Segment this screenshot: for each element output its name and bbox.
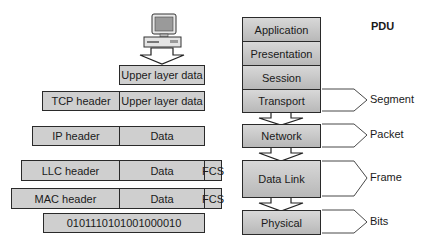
- layer-session: Session: [242, 65, 321, 90]
- layer-physical: Physical: [242, 210, 321, 235]
- mac-data-cell: Data: [120, 189, 205, 208]
- llc-header-label: LLC header: [42, 165, 100, 177]
- pdu-bracket-bits: [322, 210, 367, 233]
- ip-packet-row: IP header Data: [32, 126, 205, 146]
- mac-frame-row: MAC header Data FCS: [11, 188, 222, 209]
- bits-row: 0101110101001000010: [43, 213, 205, 233]
- bits-value: 0101110101001000010: [67, 217, 182, 229]
- down-arrow-icon: [259, 197, 303, 211]
- diagram-graphics: [0, 0, 423, 249]
- mac-data-label: Data: [150, 193, 173, 205]
- layer-label: Data Link: [258, 173, 304, 185]
- llc-fcs-label: FCS: [202, 165, 224, 177]
- layer-data-link: Data Link: [242, 160, 321, 198]
- pdu-bits: Bits: [370, 215, 388, 227]
- llc-frame-row: LLC header Data FCS: [21, 160, 222, 181]
- llc-header-cell: LLC header: [22, 161, 120, 180]
- pdu-segment: Segment: [370, 93, 414, 105]
- layer-presentation: Presentation: [242, 41, 321, 66]
- layer-label: Transport: [258, 95, 305, 107]
- llc-data-label: Data: [150, 165, 173, 177]
- ip-header-label: IP header: [52, 130, 100, 142]
- layer-label: Physical: [261, 217, 302, 229]
- tcp-data-cell: Upper layer data: [120, 92, 204, 110]
- pdu-bracket-segment: [322, 89, 367, 111]
- llc-fcs-cell: FCS: [205, 161, 221, 180]
- tcp-header-cell: TCP header: [43, 92, 120, 110]
- pdu-packet: Packet: [370, 128, 404, 140]
- pdu-bracket-frame: [322, 161, 367, 196]
- llc-data-cell: Data: [120, 161, 205, 180]
- down-arrow-icon: [140, 48, 184, 64]
- pdu-bracket-packet: [322, 124, 367, 147]
- ip-data-label: Data: [150, 130, 173, 142]
- layer-application: Application: [242, 17, 321, 42]
- layer-network: Network: [242, 124, 321, 148]
- down-arrow-icon: [259, 147, 303, 161]
- upper-layer-data-box: Upper layer data: [119, 65, 205, 85]
- ip-data-cell: Data: [120, 127, 204, 145]
- tcp-header-label: TCP header: [51, 95, 110, 107]
- layer-label: Presentation: [251, 48, 313, 60]
- layer-label: Network: [261, 130, 301, 142]
- pdu-heading: PDU: [371, 20, 394, 32]
- mac-fcs-label: FCS: [202, 193, 224, 205]
- computer-icon: [144, 14, 181, 47]
- pdu-frame: Frame: [370, 171, 402, 183]
- layer-label: Session: [262, 72, 301, 84]
- mac-fcs-cell: FCS: [205, 189, 221, 208]
- layer-transport: Transport: [242, 89, 321, 113]
- upper-layer-data-label: Upper layer data: [121, 69, 202, 81]
- mac-header-cell: MAC header: [12, 189, 120, 208]
- mac-header-label: MAC header: [35, 193, 97, 205]
- tcp-data-label: Upper layer data: [121, 95, 202, 107]
- ip-header-cell: IP header: [33, 127, 120, 145]
- tcp-segment-row: TCP header Upper layer data: [42, 91, 205, 111]
- layer-label: Application: [255, 24, 309, 36]
